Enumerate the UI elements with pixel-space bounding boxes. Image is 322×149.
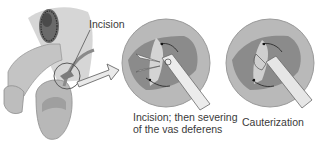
incision-label: Incision: [89, 18, 125, 30]
vasectomy-diagram: Incision Incision; then severing of the …: [0, 0, 322, 149]
cauterization-detail-panel: [226, 19, 314, 108]
severing-caption-line2: of the vas deferens: [133, 123, 222, 135]
severing-detail-panel: [122, 19, 210, 110]
severing-caption-line1: Incision; then severing: [133, 111, 237, 123]
cauterization-caption: Cauterization: [242, 116, 304, 128]
anatomy-overview-panel: [4, 7, 94, 139]
pubic-hair-texture: [39, 9, 59, 43]
